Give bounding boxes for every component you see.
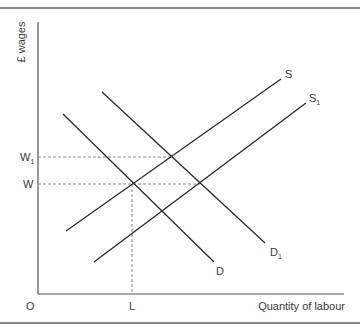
x-axis-label: Quantity of labour (258, 300, 345, 312)
curve-label-d1: D1 (270, 246, 282, 260)
curve-label-d: D (216, 265, 224, 277)
y-axis-label: £ wages (15, 21, 27, 62)
curve-label-s1: S1 (309, 92, 320, 106)
origin-label: O (26, 300, 35, 312)
w-label: W (23, 178, 34, 190)
supply-curve-s (66, 79, 281, 231)
l-label: L (129, 300, 135, 312)
supply-curve-s1 (94, 103, 306, 262)
demand-curve-d (63, 114, 214, 262)
labour-market-diagram: £ wages W1 W O L Quantity of labour D D1… (0, 0, 360, 332)
curve-label-s: S (285, 68, 292, 80)
demand-curve-d1 (102, 92, 265, 243)
w1-label: W1 (20, 151, 34, 165)
